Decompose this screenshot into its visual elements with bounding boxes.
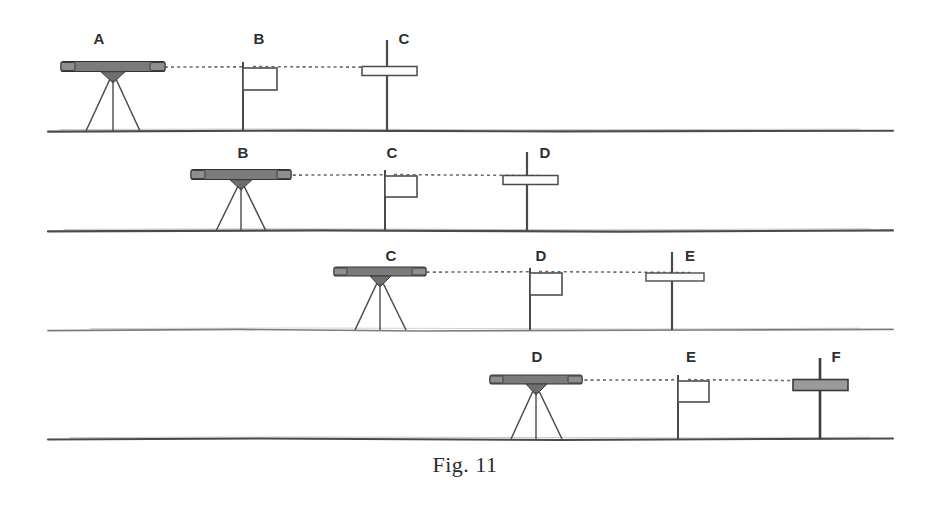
station-label-marker: B <box>254 30 265 47</box>
tripod-leg-right <box>383 283 406 330</box>
tripod-leg-left <box>511 391 533 439</box>
staff-reading-box <box>243 68 277 90</box>
cross-staff-marker <box>646 252 704 330</box>
telescope-objective <box>150 63 165 71</box>
telescope-objective <box>412 268 426 275</box>
ground-line <box>48 438 893 440</box>
tripod-leg-left <box>355 283 377 330</box>
station-label-marker: E <box>685 247 695 264</box>
figure-root: A B C <box>0 0 930 510</box>
station-label-marker: C <box>399 30 410 47</box>
staff-reading-box <box>530 273 562 295</box>
station-label-marker: C <box>387 144 398 161</box>
levelling-staff <box>530 268 562 330</box>
station-label-instrument: C <box>386 247 397 264</box>
telescope-eyepiece <box>61 63 75 71</box>
levelling-staff <box>243 62 277 131</box>
telescope-objective <box>568 376 582 383</box>
station-label-marker: E <box>686 348 696 365</box>
telescope-objective <box>277 171 291 179</box>
marker-crossbar <box>503 176 558 185</box>
ground-line <box>48 131 893 132</box>
level-instrument <box>61 62 165 132</box>
level-instrument <box>490 375 582 439</box>
survey-row: D E F <box>48 348 893 440</box>
tripod-leg-left <box>86 79 110 131</box>
marker-crossbar <box>793 380 848 391</box>
tripod-leg-right <box>539 391 562 439</box>
cross-staff-marker <box>793 358 848 439</box>
station-label-marker: D <box>540 144 551 161</box>
figure-caption: Fig. 11 <box>0 452 930 478</box>
ground-line <box>48 230 893 231</box>
ground-line-texture <box>64 229 870 230</box>
levelling-staff <box>385 170 417 231</box>
level-instrument <box>191 170 291 232</box>
telescope-eyepiece <box>191 171 205 179</box>
telescope-eyepiece <box>334 268 347 275</box>
marker-crossbar <box>362 67 417 76</box>
level-instrument <box>334 267 426 330</box>
station-label-instrument: A <box>94 30 105 47</box>
levelling-diagram: A B C <box>0 0 930 510</box>
tripod-leg-left <box>216 186 238 231</box>
station-label-instrument: B <box>238 144 249 161</box>
marker-crossbar <box>646 273 704 281</box>
staff-reading-box <box>678 381 709 402</box>
station-label-marker: D <box>536 247 547 264</box>
telescope-body <box>61 62 165 72</box>
survey-row: A B C <box>48 30 893 132</box>
staff-reading-box <box>385 176 417 197</box>
station-label-instrument: D <box>532 348 543 365</box>
survey-row: B C D <box>48 144 893 232</box>
cross-staff-marker <box>362 40 417 131</box>
telescope-eyepiece <box>490 376 503 383</box>
cross-staff-marker <box>503 152 558 231</box>
levelling-staff <box>678 375 709 439</box>
ground-line <box>48 329 893 331</box>
tripod-leg-right <box>116 79 140 131</box>
station-label-marker: F <box>831 348 840 365</box>
telescope-body <box>191 170 291 180</box>
survey-row: C D E <box>48 247 893 331</box>
ground-line-texture <box>60 129 860 130</box>
tripod-leg-right <box>244 186 266 231</box>
